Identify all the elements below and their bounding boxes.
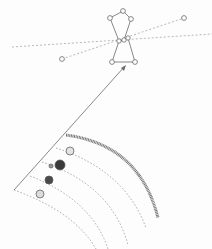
- planets: [36, 147, 74, 198]
- planet-dark: [45, 176, 53, 184]
- planet-light-1: [66, 147, 74, 155]
- diagram-canvas: [0, 0, 212, 249]
- orbits: [14, 148, 146, 249]
- planet-dark-large: [55, 160, 65, 170]
- solar-system-diagram: [0, 0, 212, 249]
- constellation-stars: [60, 9, 187, 65]
- planet-small: [49, 164, 53, 168]
- planet-light-2: [36, 190, 44, 198]
- arrow: [14, 65, 126, 190]
